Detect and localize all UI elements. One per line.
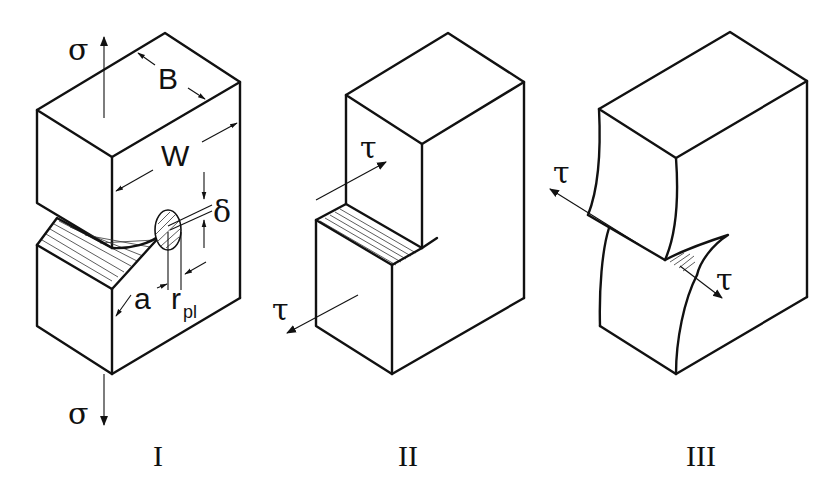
thickness-label: B — [158, 62, 178, 95]
panel-mode-iii: τ τ III — [550, 32, 807, 472]
caption-mode-ii: II — [398, 439, 418, 472]
crack-surface — [37, 218, 162, 289]
panel-mode-i: σ σ B W δ a r pl I — [37, 32, 240, 472]
a-dimension-arrow-right — [157, 284, 167, 288]
caption-mode-i: I — [153, 439, 163, 472]
w-dimension-arrow-left — [116, 170, 153, 191]
shear-right-label: τ — [716, 262, 733, 297]
crack-surface — [316, 204, 437, 265]
lower-block — [600, 228, 807, 374]
tau-bottom-arrow — [287, 295, 358, 333]
width-label: W — [161, 139, 190, 172]
caption-mode-iii: III — [686, 439, 716, 472]
crack-length-label: a — [134, 282, 151, 315]
panel-mode-ii: τ τ II — [272, 33, 524, 472]
w-dimension-arrow-right — [202, 123, 237, 142]
plastic-zone-subscript: pl — [183, 302, 197, 322]
upper-block — [346, 33, 524, 298]
tau-left-arrow — [550, 189, 640, 245]
tau-top-arrow — [316, 162, 386, 200]
crack-opening-label: δ — [213, 194, 231, 229]
a-dimension-arrow-left — [116, 295, 131, 316]
crack-front — [588, 215, 728, 275]
rpl-dimension-arrow — [185, 262, 206, 274]
lower-block — [316, 220, 524, 374]
shear-top-label: τ — [360, 130, 377, 165]
sigma-bottom-label: σ — [68, 396, 88, 431]
fracture-modes-diagram: σ σ B W δ a r pl I — [0, 0, 834, 486]
upper-block — [588, 32, 807, 297]
shear-left-label: τ — [553, 155, 570, 190]
plastic-zone-label: r — [171, 282, 181, 315]
sigma-top-label: σ — [68, 32, 88, 67]
shear-bottom-label: τ — [272, 292, 289, 327]
